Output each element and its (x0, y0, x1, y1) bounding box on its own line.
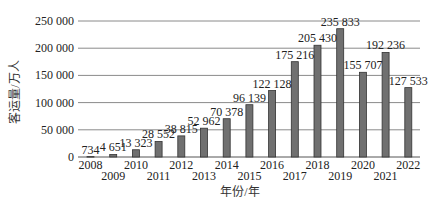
value-label: 70 378 (210, 105, 243, 119)
value-label: 175 216 (275, 48, 314, 62)
bar (201, 128, 208, 157)
y-tick-label: 50 000 (41, 123, 74, 137)
bar (223, 119, 230, 157)
x-tick-label: 2019 (328, 169, 352, 183)
bar (359, 72, 366, 157)
y-tick-label: 150 000 (35, 68, 74, 82)
bar (110, 154, 117, 157)
y-axis-ticks: 050 000100 000150 000200 000250 000 (35, 14, 74, 164)
y-tick-label: 250 000 (35, 14, 74, 28)
bar (246, 105, 253, 157)
value-label: 122 128 (253, 77, 292, 91)
value-label: 205 430 (298, 31, 337, 45)
bar (269, 91, 276, 157)
value-labels: 7344 65113 32328 55238 81552 96270 37896… (82, 15, 428, 157)
value-label: 96 139 (233, 91, 266, 105)
x-axis-ticks: 2008200920102011201220132014201520162017… (79, 158, 421, 183)
x-axis-label: 年份/年 (220, 185, 259, 199)
x-tick-label: 2018 (306, 158, 330, 172)
x-tick-label: 2014 (215, 158, 239, 172)
x-tick-label: 2021 (374, 169, 398, 183)
y-tick-label: 0 (68, 150, 74, 164)
y-axis-label: 客运量/万人 (7, 60, 22, 123)
bar (337, 29, 344, 157)
bar (291, 62, 298, 157)
value-label: 127 533 (389, 74, 428, 88)
x-tick-label: 2013 (192, 169, 216, 183)
value-label: 235 833 (321, 15, 360, 29)
x-tick-label: 2010 (124, 158, 148, 172)
value-label: 734 (82, 143, 100, 157)
bar (405, 88, 412, 157)
bar (382, 52, 389, 157)
x-tick-label: 2016 (260, 158, 284, 172)
x-tick-label: 2022 (396, 158, 420, 172)
bar (178, 136, 185, 157)
x-tick-label: 2011 (147, 169, 171, 183)
y-tick-label: 100 000 (35, 96, 74, 110)
x-tick-label: 2020 (351, 158, 375, 172)
x-tick-label: 2015 (237, 169, 261, 183)
x-tick-label: 2008 (79, 158, 103, 172)
x-tick-label: 2017 (283, 169, 307, 183)
bar (132, 150, 139, 157)
y-tick-label: 200 000 (35, 41, 74, 55)
bar (314, 45, 321, 157)
bar-chart: 050 000100 000150 000200 000250 000 7344… (0, 0, 440, 209)
x-tick-label: 2012 (169, 158, 193, 172)
value-label: 155 707 (343, 58, 382, 72)
bar (155, 141, 162, 157)
x-tick-label: 2009 (101, 169, 125, 183)
value-label: 192 236 (366, 38, 405, 52)
